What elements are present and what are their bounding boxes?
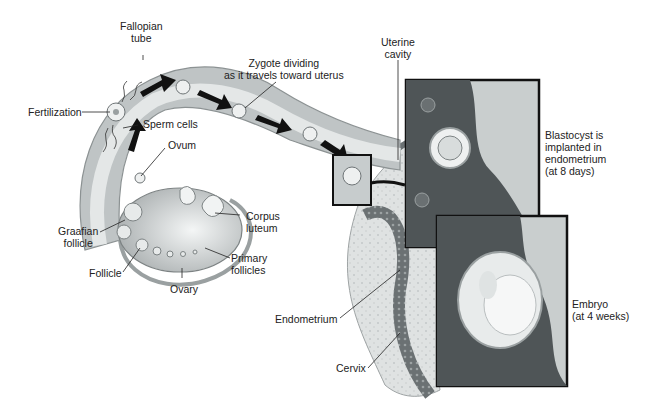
label-primary-follicles: Primary follicles bbox=[231, 252, 267, 276]
label-ovary: Ovary bbox=[170, 283, 198, 295]
label-ovum: Ovum bbox=[168, 139, 196, 151]
reproduction-diagram: Fallopian tube Zygote dividing as it tra… bbox=[0, 0, 655, 415]
label-graafian-follicle: Graafian follicle bbox=[58, 225, 98, 249]
label-cervix: Cervix bbox=[336, 362, 366, 374]
label-uterine-cavity: Uterine cavity bbox=[381, 36, 415, 60]
label-zygote-dividing: Zygote dividing as it travels toward ute… bbox=[224, 57, 344, 81]
label-sperm-cells: Sperm cells bbox=[143, 118, 198, 130]
label-embryo: Embryo (at 4 weeks) bbox=[572, 298, 629, 322]
label-blastocyst: Blastocyst is implanted in endometrium (… bbox=[545, 129, 606, 177]
label-fertilization: Fertilization bbox=[28, 106, 82, 118]
label-corpus-luteum: Corpus luteum bbox=[246, 210, 280, 234]
label-follicle: Follicle bbox=[89, 267, 122, 279]
label-fallopian-tube: Fallopian tube bbox=[120, 20, 163, 44]
embryo-inset bbox=[437, 216, 567, 386]
label-endometrium: Endometrium bbox=[275, 313, 337, 325]
ovary bbox=[117, 186, 242, 272]
